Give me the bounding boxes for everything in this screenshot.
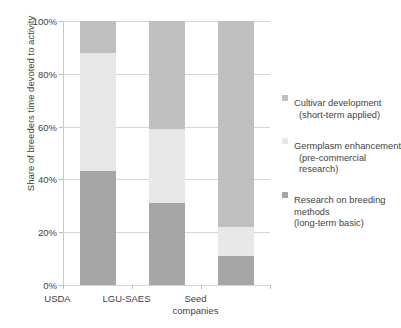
x-tick-mark [63,285,64,289]
x-tick-label: LGU-SAES [87,293,167,305]
y-tick-label: 0% [43,280,57,291]
bar-segment[interactable] [80,21,116,53]
x-tick-label-line: companies [156,305,236,317]
bar-usda[interactable] [80,21,116,285]
x-tick-mark [132,285,133,289]
legend-item[interactable]: Cultivar development(short-term applied) [282,92,401,122]
y-tick-label: 100% [33,16,57,27]
legend-swatch-icon [282,192,288,198]
bar-segment[interactable] [218,256,254,285]
x-tick-label: Seedcompanies [156,293,236,317]
y-tick-mark [59,74,63,75]
x-tick-mark [270,285,271,289]
legend-label-line: methods [294,207,401,219]
bar-segment[interactable] [80,171,116,285]
y-tick-mark [59,179,63,180]
y-tick-label: 80% [38,68,57,79]
y-tick-label: 60% [38,121,57,132]
gridline-0pct [63,285,270,286]
bar-segment[interactable] [80,53,116,172]
legend-sublabel: (long-term basic) [294,218,401,230]
y-tick-label: 40% [38,174,57,185]
y-tick-mark [59,127,63,128]
chart-figure: Share of breeders time devoted to activi… [0,0,401,328]
plot-area: 0%20%40%60%80%100% USDALGU-SAESSeedcompa… [63,21,270,285]
legend-label-line: Cultivar development [294,98,381,108]
legend-label-line: Research on breeding [294,195,385,205]
legend-label-line: Germplasm enhancement [294,141,401,151]
legend-label: Germplasm enhancement(pre-commercial res… [294,141,401,176]
y-axis-title: Share of breeders time devoted to activi… [25,0,36,234]
legend-label: Cultivar development(short-term applied) [294,98,401,122]
legend-label: Research on breedingmethods(long-term ba… [294,195,401,230]
legend-swatch-icon [282,138,288,144]
y-axis-line [63,21,64,286]
chart-legend: Cultivar development(short-term applied)… [282,92,401,243]
y-tick-label: 20% [38,227,57,238]
legend-sublabel: (short-term applied) [294,110,401,122]
bar-seed-companies[interactable] [218,21,254,285]
bar-segment[interactable] [149,203,185,285]
x-tick-label-line: LGU-SAES [87,293,167,305]
bar-segment[interactable] [149,129,185,203]
bar-segment[interactable] [218,227,254,256]
x-tick-label: USDA [18,293,98,305]
legend-swatch-icon [282,95,288,101]
bar-lgu-saes[interactable] [149,21,185,285]
x-tick-label-line: Seed [156,293,236,305]
legend-item[interactable]: Germplasm enhancement(pre-commercial res… [282,135,401,176]
y-tick-mark [59,21,63,22]
x-tick-mark [201,285,202,289]
legend-sublabel: (pre-commercial research) [294,153,401,176]
y-tick-mark [59,232,63,233]
x-tick-label-line: USDA [18,293,98,305]
legend-item[interactable]: Research on breedingmethods(long-term ba… [282,189,401,230]
bar-segment[interactable] [149,21,185,129]
bar-segment[interactable] [218,21,254,227]
